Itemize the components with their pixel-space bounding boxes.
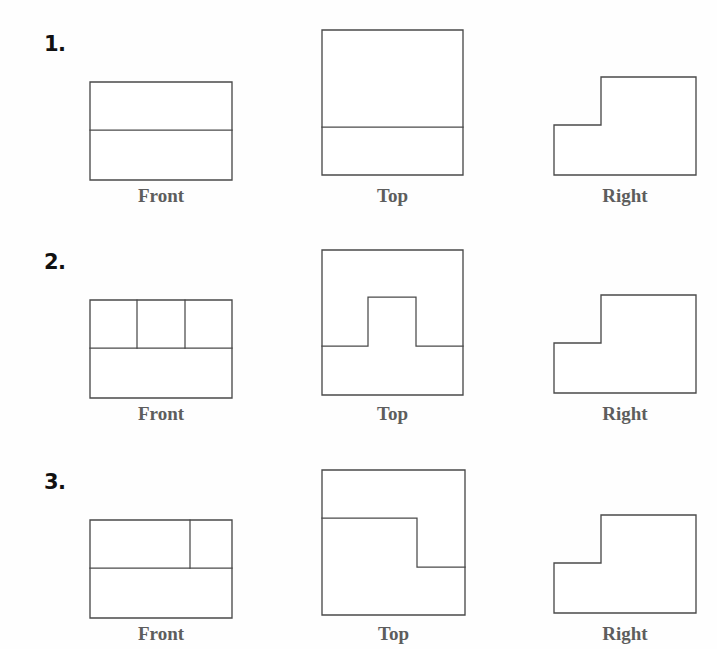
problem-1-right-label: Right — [554, 186, 696, 205]
problem-3-front-label: Front — [90, 624, 232, 643]
problem-2-front-label: Front — [90, 404, 232, 423]
problem-3-right-view — [554, 515, 696, 613]
problem-number-1: 1. — [44, 34, 66, 55]
problem-3-right-label: Right — [554, 624, 696, 643]
problem-number-3: 3. — [44, 472, 66, 493]
worksheet-sheet: 1. Front Top Right 2. — [0, 0, 717, 649]
problem-2-top-view — [322, 250, 463, 395]
problem-number-2: 2. — [44, 252, 66, 273]
problem-1-right-view — [554, 77, 696, 175]
problem-3-top-label: Top — [322, 624, 465, 643]
problem-3-front-view — [90, 520, 232, 618]
problem-2-right-label: Right — [554, 404, 696, 423]
problem-2-top-label: Top — [322, 404, 463, 423]
problem-2-front-view — [90, 300, 232, 398]
problem-1-front-label: Front — [90, 186, 232, 205]
problem-1-front-view — [90, 82, 232, 180]
problem-3-top-view — [322, 470, 465, 615]
problem-2-right-view — [554, 295, 696, 393]
problem-1-top-view — [322, 30, 463, 175]
problem-1-top-label: Top — [322, 186, 463, 205]
clipped-header-text — [30, 0, 650, 5]
